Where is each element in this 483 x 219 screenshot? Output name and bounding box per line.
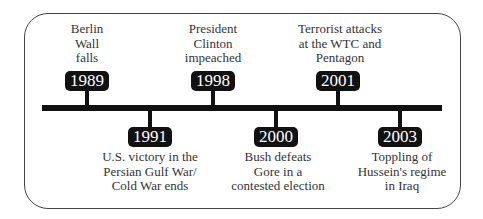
label-line: impeached — [185, 51, 241, 66]
year-badge-1989: 1989 — [65, 71, 109, 91]
year-badge-1991: 1991 — [128, 127, 172, 147]
label-line: Gore in a — [231, 165, 325, 180]
label-line: Wall — [71, 37, 104, 52]
connector-1991 — [148, 110, 152, 128]
event-1989-label: Berlin Wall falls — [71, 22, 104, 66]
label-line: Terrorist attacks — [298, 22, 382, 37]
year-badge-1998: 1998 — [191, 71, 235, 91]
timeline-bar — [42, 105, 442, 111]
label-line: contested election — [231, 179, 325, 194]
year-badge-2003: 2003 — [378, 127, 422, 147]
label-line: Bush defeats — [231, 150, 325, 165]
connector-2001 — [336, 90, 340, 106]
connector-1998 — [211, 90, 215, 106]
event-2003-label: Toppling of Hussein's regime in Iraq — [358, 150, 447, 194]
label-line: U.S. victory in the — [102, 150, 198, 165]
label-line: Berlin — [71, 22, 104, 37]
label-line: President — [185, 22, 241, 37]
label-line: falls — [71, 51, 104, 66]
connector-1989 — [85, 90, 89, 106]
label-line: at the WTC and — [298, 37, 382, 52]
event-1998-label: President Clinton impeached — [185, 22, 241, 66]
label-line: Hussein's regime — [358, 165, 447, 180]
label-line: Persian Gulf War/ — [102, 165, 198, 180]
label-line: Clinton — [185, 37, 241, 52]
event-2001-label: Terrorist attacks at the WTC and Pentago… — [298, 22, 382, 66]
event-1991-label: U.S. victory in the Persian Gulf War/ Co… — [102, 150, 198, 194]
year-badge-2001: 2001 — [316, 71, 360, 91]
connector-2000 — [274, 110, 278, 128]
label-line: Cold War ends — [102, 179, 198, 194]
event-2000-label: Bush defeats Gore in a contested electio… — [231, 150, 325, 194]
label-line: Pentagon — [298, 51, 382, 66]
connector-2003 — [398, 110, 402, 128]
year-badge-2000: 2000 — [254, 127, 298, 147]
label-line: in Iraq — [358, 179, 447, 194]
label-line: Toppling of — [358, 150, 447, 165]
